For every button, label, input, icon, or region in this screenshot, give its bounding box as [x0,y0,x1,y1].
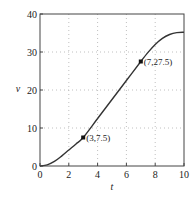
point-annotation: (7,27.5) [144,57,173,67]
y-tick-labels: 010203040 [27,9,43,172]
grid [40,14,184,166]
x-tick-label: 2 [66,169,71,180]
chart: 0246810 010203040 (3,7.5)(7,27.5) t v [0,0,195,197]
x-axis-label: t [111,181,114,192]
x-tick-label: 8 [153,169,158,180]
point-annotation: (3,7.5) [86,133,110,143]
x-tick-label: 6 [124,169,129,180]
x-tick-label: 4 [95,169,100,180]
data-point-marker [81,136,85,140]
y-tick-label: 0 [32,161,37,172]
y-tick-label: 30 [27,47,37,58]
y-tick-label: 40 [27,9,37,20]
y-tick-label: 20 [27,85,37,96]
annotations: (3,7.5)(7,27.5) [81,57,172,143]
y-tick-label: 10 [27,123,37,134]
x-tick-label: 0 [38,169,43,180]
x-tick-label: 10 [179,169,189,180]
y-axis-label: v [16,83,21,94]
data-point-marker [139,60,143,64]
